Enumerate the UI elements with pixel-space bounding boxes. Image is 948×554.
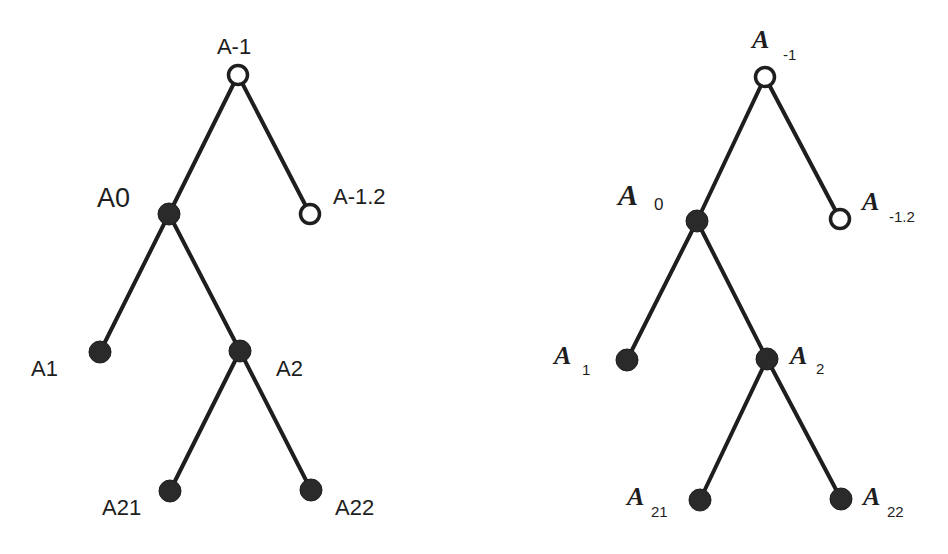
node-label-a-21: A21 bbox=[625, 482, 668, 520]
label-subscript: 22 bbox=[887, 503, 904, 520]
open-node-a-1 bbox=[756, 68, 775, 87]
node-label-a-1: A1 bbox=[552, 341, 590, 378]
node-label-a-2: A2 bbox=[788, 341, 824, 377]
node-label-a1: A1 bbox=[31, 356, 58, 381]
node-label-a-1-2: A-1.2 bbox=[333, 184, 386, 209]
label-base: A bbox=[861, 482, 880, 511]
open-node-a-1 bbox=[229, 66, 248, 85]
tree-edge-a-1-to-a-1-2 bbox=[765, 77, 840, 219]
left-tree-edges bbox=[100, 75, 311, 491]
label-subscript: -1.2 bbox=[889, 208, 915, 225]
tree-edge-a-1-to-a-1-2 bbox=[238, 75, 310, 214]
node-label-a-0: A0 bbox=[616, 178, 663, 214]
label-base: A bbox=[552, 341, 571, 370]
node-label-a2: A2 bbox=[276, 356, 303, 381]
filled-node-a1 bbox=[89, 341, 111, 363]
filled-node-a0 bbox=[158, 203, 180, 225]
node-label-a-1-2: A-1.2 bbox=[860, 187, 915, 225]
node-label-a21: A21 bbox=[102, 495, 141, 520]
node-label-a0: A0 bbox=[97, 183, 130, 213]
left-tree-labels: A-1A0A-1.2A1A2A21A22 bbox=[31, 34, 386, 520]
open-node-a-1-2 bbox=[831, 210, 850, 229]
label-base: A bbox=[788, 341, 807, 370]
tree-edge-a-0-to-a-1 bbox=[627, 221, 697, 360]
filled-node-a-21 bbox=[689, 489, 711, 511]
right-tree-nodes bbox=[616, 68, 852, 512]
right-tree-labels: A-1A0A-1.2A1A2A21A22 bbox=[552, 25, 915, 520]
filled-node-a-1 bbox=[616, 349, 638, 371]
filled-node-a22 bbox=[300, 479, 322, 501]
filled-node-a-22 bbox=[830, 488, 852, 510]
label-subscript: 1 bbox=[582, 361, 590, 378]
label-subscript: -1 bbox=[783, 46, 796, 63]
tree-edge-a-1-to-a0 bbox=[169, 75, 238, 214]
tree-edge-a0-to-a1 bbox=[100, 214, 169, 352]
tree-edge-a-0-to-a-2 bbox=[697, 221, 767, 359]
right-tree-subscript-labels: A-1A0A-1.2A1A2A21A22 bbox=[552, 25, 915, 520]
filled-node-a-0 bbox=[686, 210, 708, 232]
node-label-a-1: A-1 bbox=[217, 34, 251, 59]
filled-node-a-2 bbox=[756, 348, 778, 370]
open-node-a-1-2 bbox=[301, 205, 320, 224]
node-label-a-22: A22 bbox=[861, 482, 904, 520]
tree-edge-a-2-to-a-22 bbox=[767, 359, 841, 499]
node-label-a-1: A-1 bbox=[750, 25, 796, 63]
tree-edge-a0-to-a2 bbox=[169, 214, 240, 351]
label-base: A bbox=[750, 25, 769, 54]
label-base: A bbox=[625, 482, 644, 511]
node-label-a22: A22 bbox=[335, 495, 374, 520]
label-subscript: 2 bbox=[816, 360, 824, 377]
tree-diagram: A-1A0A-1.2A1A2A21A22 A-1A0A-1.2A1A2A21A2… bbox=[0, 0, 948, 554]
filled-node-a21 bbox=[159, 480, 181, 502]
filled-node-a2 bbox=[229, 340, 251, 362]
label-subscript: 21 bbox=[651, 503, 668, 520]
right-tree-edges bbox=[627, 77, 841, 500]
tree-edge-a2-to-a21 bbox=[170, 351, 240, 491]
label-base: A bbox=[616, 178, 638, 211]
tree-edge-a-1-to-a-0 bbox=[697, 77, 765, 221]
tree-edge-a-2-to-a-21 bbox=[700, 359, 767, 500]
label-base: A bbox=[860, 187, 879, 216]
label-subscript: 0 bbox=[654, 195, 663, 214]
left-tree-plain-labels: A-1A0A-1.2A1A2A21A22 bbox=[31, 34, 386, 520]
